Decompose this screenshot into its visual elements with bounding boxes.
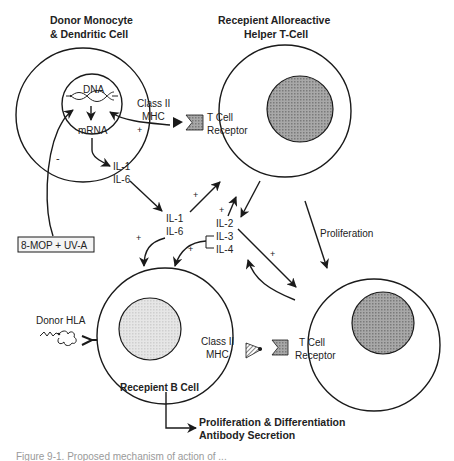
plus-sign-il1-t: + bbox=[193, 190, 198, 200]
donor-il1-label: IL-1 bbox=[113, 161, 131, 172]
il2-to-t-cell-arrow bbox=[238, 229, 296, 287]
t-cell-2: T Cell Receptor bbox=[295, 279, 440, 411]
helper-t-receptor-label-line1: T Cell bbox=[207, 112, 233, 123]
plus-sign-il6-b: + bbox=[136, 233, 141, 243]
donor-monocyte-cell: DNA mRNA Class II MHC + IL-1 IL-6 bbox=[16, 48, 170, 185]
il3-label: IL-3 bbox=[216, 231, 234, 242]
il6-label: IL-6 bbox=[166, 226, 184, 237]
plus-sign-il2-t2: + bbox=[270, 249, 275, 259]
plus-sign-il34-b: + bbox=[188, 244, 193, 254]
il2-to-helper-t-arrow bbox=[228, 197, 236, 216]
t-cell-2-receptor-label-line1: T Cell bbox=[299, 337, 325, 348]
donor-il6-label: IL-6 bbox=[113, 174, 131, 185]
b-cell-mhc-label-line1: Class II bbox=[201, 336, 234, 347]
outcome-label-line1: Proliferation & Differentiation bbox=[199, 416, 345, 428]
antigen-dot bbox=[58, 333, 61, 336]
donor-cell-title-line1: Donor Monocyte bbox=[50, 14, 133, 26]
donor-mhc-label-line1: Class II bbox=[137, 98, 170, 109]
mrna-label: mRNA bbox=[78, 125, 108, 136]
mhc-plus-sign: + bbox=[137, 125, 142, 135]
outcome-label-line2: Antibody Secretion bbox=[199, 429, 295, 441]
proliferation-label: Proliferation bbox=[320, 228, 373, 239]
treatment-label: 8-MOP + UV-A bbox=[21, 240, 88, 251]
il4-label: IL-4 bbox=[216, 244, 234, 255]
t-cell-to-il-arrow bbox=[248, 260, 295, 300]
b-cell-antibody-receptor-icon bbox=[82, 336, 97, 345]
recipient-b-cell: Recepient B Cell Class II MHC bbox=[97, 268, 234, 404]
donor-hla-label: Donor HLA bbox=[36, 315, 86, 326]
figure-caption: Figure 9-1. Proposed mechanism of action… bbox=[16, 451, 227, 461]
helper-t-receptor-label-line2: Receptor bbox=[207, 125, 248, 136]
donor-mhc-label-line2: MHC bbox=[142, 111, 165, 122]
treatment-minus-sign: - bbox=[56, 152, 60, 164]
il2-label: IL-2 bbox=[216, 218, 234, 229]
helper-t-cell-nucleus bbox=[267, 76, 333, 142]
mrna-to-il-arrow bbox=[92, 138, 110, 166]
donor-cell-title-line2: & Dendritic Cell bbox=[50, 28, 128, 40]
dna-label: DNA bbox=[83, 84, 104, 95]
immune-mechanism-diagram: Donor Monocyte & Dendritic Cell Recepien… bbox=[0, 0, 454, 461]
treatment-inhibit-arrow bbox=[47, 110, 73, 236]
t-cell-2-receptor-label-line2: Receptor bbox=[295, 350, 336, 361]
b-cell-nucleus bbox=[119, 298, 181, 360]
t-cell-receptor-icon bbox=[186, 115, 203, 130]
il-release-arrow bbox=[130, 181, 162, 211]
t-cell-2-receptor-icon bbox=[272, 340, 288, 355]
mhc-peptide-dot bbox=[258, 347, 262, 351]
plus-sign-il2: + bbox=[219, 205, 224, 215]
helper-t-cell-title-line2: Helper T-Cell bbox=[244, 28, 308, 40]
il3-il4-bracket bbox=[206, 236, 214, 248]
helper-t-cell: T Cell Receptor bbox=[207, 45, 351, 177]
b-cell-title: Recepient B Cell bbox=[120, 382, 199, 393]
class-ii-mhc-molecule-icon bbox=[173, 117, 183, 128]
il6-to-b-cell-arrow bbox=[144, 238, 165, 266]
il1-label: IL-1 bbox=[166, 213, 184, 224]
helper-t-to-il2-arrow bbox=[241, 181, 260, 217]
t-cell-2-nucleus bbox=[352, 292, 414, 354]
helper-t-cell-title-line1: Recepient Alloreactive bbox=[218, 14, 330, 26]
b-cell-mhc-label-line2: MHC bbox=[206, 349, 229, 360]
b-cell-output-arrow bbox=[166, 392, 196, 428]
